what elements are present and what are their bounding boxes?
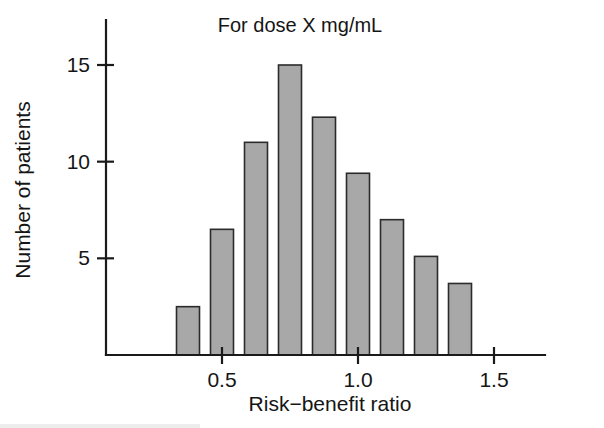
y-tick-label: 15	[67, 53, 90, 76]
y-tick-label: 5	[78, 246, 90, 269]
x-tick-label: 1.0	[343, 368, 372, 391]
figure-panel: For dose X mg/mL 51015 0.51.01.5 Risk−be…	[0, 0, 604, 428]
y-axis-title: Number of patients	[11, 101, 34, 278]
x-tick-label: 1.5	[479, 368, 508, 391]
scan-artifact	[0, 424, 200, 428]
bar	[279, 65, 302, 355]
x-tick-label: 0.5	[207, 368, 236, 391]
bar	[415, 256, 438, 355]
histogram-chart: For dose X mg/mL 51015 0.51.01.5 Risk−be…	[0, 0, 604, 428]
chart-title: For dose X mg/mL	[218, 14, 383, 36]
bar	[211, 229, 234, 355]
x-axis-title: Risk−benefit ratio	[249, 392, 412, 415]
bar	[347, 173, 370, 355]
bar	[245, 142, 268, 355]
y-tick-label: 10	[67, 150, 90, 173]
bar	[381, 220, 404, 355]
bar	[313, 117, 336, 355]
bar	[177, 307, 200, 355]
bar	[449, 283, 472, 355]
